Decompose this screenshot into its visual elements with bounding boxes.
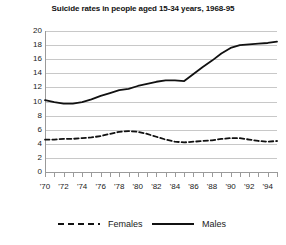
x-tick bbox=[91, 172, 92, 177]
gridline bbox=[45, 45, 277, 46]
chart-container: Suicide rates in people aged 15-34 years… bbox=[0, 0, 286, 245]
y-tick-label: 20 bbox=[20, 27, 42, 35]
gridline bbox=[45, 144, 277, 145]
x-tick bbox=[147, 172, 148, 177]
x-tick bbox=[73, 172, 74, 177]
legend-label-females: Females bbox=[108, 219, 143, 229]
y-tick-label: 0 bbox=[20, 168, 42, 176]
x-tick bbox=[268, 172, 269, 177]
x-tick-label: '94 bbox=[257, 182, 279, 191]
y-tick-label: 2 bbox=[20, 154, 42, 162]
x-tick bbox=[166, 172, 167, 177]
x-tick bbox=[175, 172, 176, 177]
x-tick bbox=[54, 172, 55, 177]
y-tick-label: 8 bbox=[20, 112, 42, 120]
legend-item-males: Males bbox=[152, 216, 226, 232]
y-tick-label: 4 bbox=[20, 140, 42, 148]
x-tick bbox=[64, 172, 65, 177]
y-tick-label: 6 bbox=[20, 126, 42, 134]
y-tick-label: 10 bbox=[20, 98, 42, 106]
x-tick bbox=[119, 172, 120, 177]
legend-label-males: Males bbox=[202, 219, 226, 229]
gridline bbox=[45, 102, 277, 103]
gridline bbox=[45, 87, 277, 88]
x-tick bbox=[221, 172, 222, 177]
gridline bbox=[45, 31, 277, 32]
chart-title: Suicide rates in people aged 15-34 years… bbox=[0, 4, 286, 13]
x-tick bbox=[240, 172, 241, 177]
y-tick-label: 18 bbox=[20, 41, 42, 49]
x-tick bbox=[212, 172, 213, 177]
x-tick bbox=[249, 172, 250, 177]
chart-legend: Females Males bbox=[0, 216, 286, 232]
x-tick bbox=[277, 172, 278, 177]
x-tick bbox=[184, 172, 185, 177]
gridline bbox=[45, 158, 277, 159]
y-tick-label: 16 bbox=[20, 55, 42, 63]
x-tick bbox=[258, 172, 259, 177]
legend-item-females: Females bbox=[58, 216, 143, 232]
gridline bbox=[45, 116, 277, 117]
x-tick bbox=[45, 172, 46, 177]
gridline bbox=[45, 59, 277, 60]
x-tick bbox=[193, 172, 194, 177]
gridline bbox=[45, 73, 277, 74]
y-axis-tick-labels: 20181614121086420 bbox=[16, 0, 42, 245]
x-tick bbox=[156, 172, 157, 177]
x-tick bbox=[203, 172, 204, 177]
gridlines bbox=[45, 31, 277, 172]
dashed-line-swatch-icon bbox=[58, 219, 100, 229]
y-tick-label: 14 bbox=[20, 69, 42, 77]
x-tick bbox=[110, 172, 111, 177]
y-axis-line bbox=[45, 31, 46, 172]
x-tick bbox=[231, 172, 232, 177]
y-tick-label: 12 bbox=[20, 83, 42, 91]
solid-line-swatch-icon bbox=[152, 219, 194, 229]
gridline bbox=[45, 130, 277, 131]
x-tick bbox=[138, 172, 139, 177]
x-axis-line bbox=[45, 172, 277, 173]
x-tick bbox=[82, 172, 83, 177]
x-tick bbox=[101, 172, 102, 177]
x-tick bbox=[129, 172, 130, 177]
